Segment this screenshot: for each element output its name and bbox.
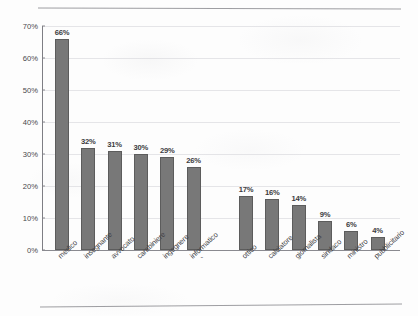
top-horizontal-rule	[38, 7, 401, 9]
y-tick-label: 10%	[8, 214, 38, 223]
stray-annotation-mark: -	[201, 252, 204, 261]
y-axis-tick-labels: 0%10%20%30%40%50%60%70%	[8, 26, 38, 250]
bottom-horizontal-rule	[40, 303, 402, 307]
y-tick-label: 30%	[8, 150, 38, 159]
bar-value-label: 66%	[45, 28, 79, 37]
y-tick-label: 0%	[8, 246, 38, 255]
y-tick-label: 70%	[8, 22, 38, 31]
bar-value-label: 26%	[177, 156, 211, 165]
bar	[55, 39, 69, 250]
y-tick-label: 50%	[8, 86, 38, 95]
bar-value-label: 29%	[150, 146, 184, 155]
bar	[134, 154, 148, 250]
y-tick-label: 60%	[8, 54, 38, 63]
bar-value-label: 14%	[282, 194, 316, 203]
y-tick-label: 40%	[8, 118, 38, 127]
bar-chart-figure: 0%10%20%30%40%50%60%70% 66%32%31%30%29%2…	[0, 0, 418, 316]
y-tick-label: 20%	[8, 182, 38, 191]
bar-value-label: 4%	[361, 226, 395, 235]
bar	[81, 148, 95, 250]
bar-value-label: 9%	[308, 210, 342, 219]
